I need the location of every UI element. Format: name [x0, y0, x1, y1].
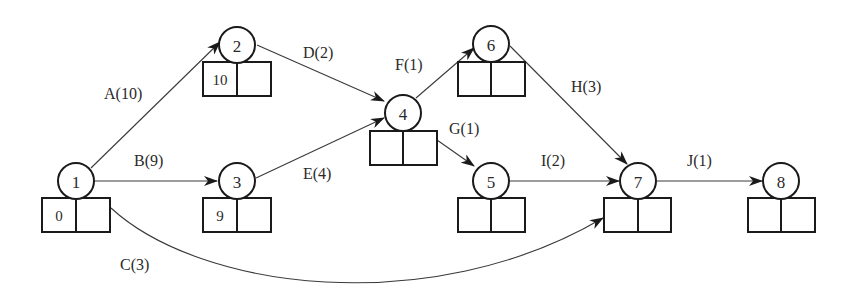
node-5: 5 — [458, 163, 525, 232]
node-7-label: 7 — [634, 173, 643, 192]
node-3-es: 9 — [216, 208, 224, 224]
node-4: 4 — [370, 95, 437, 165]
node-2-box-right — [237, 62, 271, 96]
edge-a: A(10) — [91, 42, 220, 168]
edge-d: D(2) — [257, 44, 384, 101]
node-1-box-right — [76, 198, 110, 232]
node-8-box-left — [748, 198, 781, 232]
node-4-label: 4 — [399, 105, 408, 124]
node-4-box-left — [370, 131, 403, 165]
node-3: 9 3 — [203, 163, 271, 232]
node-5-label: 5 — [487, 173, 496, 192]
node-8-box-right — [781, 198, 815, 232]
node-1-es: 0 — [55, 208, 63, 224]
node-3-box-right — [237, 198, 271, 232]
node-6-box-left — [458, 62, 491, 96]
edge-i-label: I(2) — [541, 152, 565, 170]
node-7: 7 — [604, 163, 671, 232]
edge-a-arrow — [91, 42, 220, 168]
edge-d-label: D(2) — [303, 44, 333, 62]
edge-h: H(3) — [510, 46, 627, 164]
edge-g-label: G(1) — [449, 120, 479, 138]
edge-j-label: J(1) — [687, 152, 712, 170]
edge-h-arrow — [510, 46, 627, 164]
edge-g-arrow — [437, 140, 474, 166]
edge-b-label: B(9) — [134, 152, 163, 170]
node-6: 6 — [458, 26, 525, 96]
node-1: 0 1 — [42, 163, 110, 232]
node-7-box-right — [638, 198, 671, 232]
edge-b: B(9) — [95, 152, 217, 181]
node-6-box-right — [491, 62, 525, 96]
edge-c-arrow — [111, 208, 603, 283]
node-3-label: 3 — [233, 173, 242, 192]
node-2: 10 2 — [203, 27, 271, 96]
node-8: 8 — [748, 163, 815, 232]
edge-c-label: C(3) — [120, 256, 149, 274]
edge-e-label: E(4) — [303, 165, 331, 183]
node-2-es: 10 — [213, 72, 228, 88]
node-2-label: 2 — [233, 37, 242, 56]
edge-c: C(3) — [111, 208, 603, 283]
edge-a-label: A(10) — [104, 85, 142, 103]
edge-j: J(1) — [657, 152, 762, 181]
node-5-box-left — [458, 198, 491, 232]
edge-g: G(1) — [437, 120, 479, 166]
node-6-label: 6 — [487, 36, 496, 55]
network-diagram: A(10) B(9) C(3) D(2) E(4) F(1) G — [0, 0, 850, 300]
node-5-box-right — [491, 198, 525, 232]
edge-i: I(2) — [510, 152, 619, 181]
edge-f-label: F(1) — [395, 56, 423, 74]
edge-h-label: H(3) — [571, 78, 601, 96]
node-4-box-right — [403, 131, 437, 165]
nodes: 0 1 10 2 9 3 4 — [42, 26, 815, 232]
node-8-label: 8 — [777, 173, 786, 192]
edge-e: E(4) — [256, 118, 384, 183]
node-1-label: 1 — [72, 173, 81, 192]
node-7-box-left — [604, 198, 638, 232]
